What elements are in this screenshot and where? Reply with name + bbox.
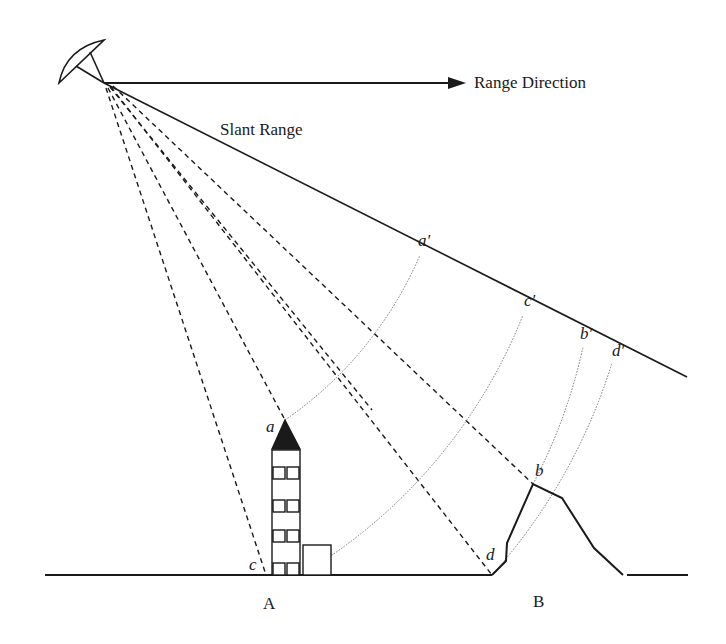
ground-label-B: B	[533, 593, 544, 610]
arrowhead-icon	[448, 77, 466, 89]
point-c-label: c	[249, 556, 257, 573]
slant-range-label: Slant Range	[220, 121, 303, 138]
point-c-prime-label: c′	[524, 292, 535, 309]
ray-to-b	[113, 86, 533, 484]
arc-c	[301, 315, 523, 575]
point-b-prime-label: b′	[580, 325, 592, 342]
point-b-label: b	[535, 462, 544, 479]
ground-label-A: A	[263, 595, 275, 612]
mountain	[492, 484, 623, 575]
antenna-icon	[59, 40, 104, 83]
annex-building	[303, 545, 331, 575]
tower-roof	[272, 420, 300, 449]
point-d-label: d	[486, 546, 495, 563]
building-tower	[272, 420, 331, 575]
range-arcs	[285, 255, 612, 575]
ray-to-d	[111, 87, 492, 575]
arc-d	[492, 363, 612, 575]
point-d-prime-label: d′	[612, 342, 624, 359]
range-direction-label: Range Direction	[474, 74, 586, 91]
point-a-label: a	[266, 418, 275, 435]
radar-rays	[106, 86, 533, 575]
ray-to-c	[106, 88, 266, 575]
point-a-prime-label: a′	[418, 232, 430, 249]
radar-geometry-diagram	[0, 0, 726, 644]
slant-range-line	[104, 83, 687, 377]
